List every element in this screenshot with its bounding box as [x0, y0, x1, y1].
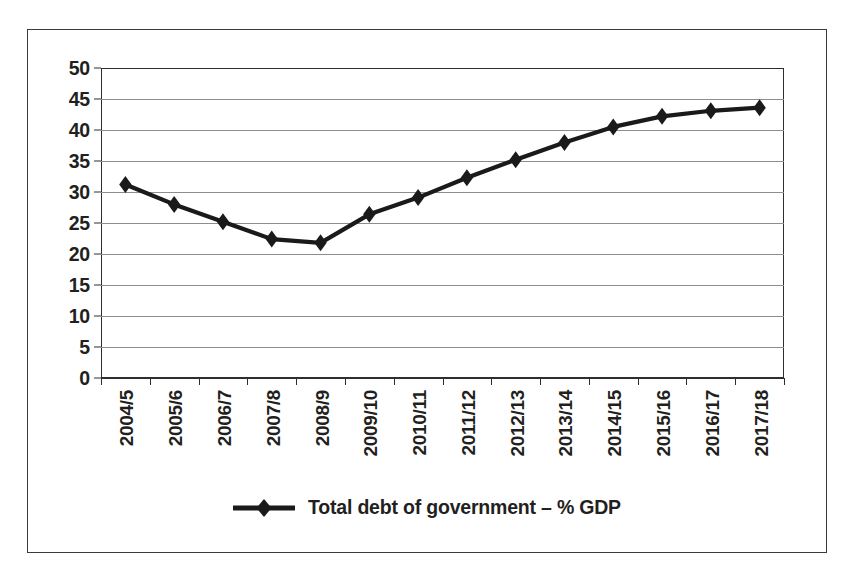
x-axis-tick-label: 2006/7	[214, 390, 236, 446]
legend-label: Total debt of government – % GDP	[308, 496, 621, 519]
x-axis-tick-label: 2007/8	[263, 390, 285, 446]
x-axis-tick-mark	[784, 378, 785, 385]
x-axis-tick-mark	[247, 378, 248, 385]
gridline	[101, 347, 784, 348]
y-axis-tick-mark	[94, 316, 101, 317]
x-axis-tick-mark	[199, 378, 200, 385]
diamond-marker-icon	[233, 498, 295, 518]
x-axis-tick-label: 2005/6	[165, 390, 187, 446]
x-axis-tick-mark	[296, 378, 297, 385]
y-axis-tick-label: 40	[69, 119, 90, 142]
y-axis-tick-mark	[94, 130, 101, 131]
x-axis-tick-label: 2009/10	[360, 390, 382, 457]
y-axis-tick-label: 20	[69, 243, 90, 266]
x-axis-tick-label: 2011/12	[458, 390, 480, 456]
y-axis-tick-mark	[94, 161, 101, 162]
y-axis-tick-mark	[94, 223, 101, 224]
x-axis-tick-mark	[589, 378, 590, 385]
plot-wrapper: 05101520253035404550 2004/52005/62006/72…	[101, 68, 784, 378]
gridline	[101, 99, 784, 100]
x-axis-tick-label: 2017/18	[751, 390, 773, 457]
x-axis-tick-label: 2014/15	[604, 390, 626, 457]
y-axis-tick-label: 10	[69, 305, 90, 328]
x-axis-tick-mark	[491, 378, 492, 385]
gridline	[101, 68, 784, 69]
gridline	[101, 285, 784, 286]
x-axis-tick-mark	[394, 378, 395, 385]
x-axis-tick-label: 2016/17	[702, 390, 724, 457]
x-axis-tick-mark	[150, 378, 151, 385]
y-axis-tick-label: 5	[79, 336, 90, 359]
gridline	[101, 223, 784, 224]
y-axis-tick-mark	[94, 378, 101, 379]
gridline	[101, 316, 784, 317]
x-axis-tick-mark	[735, 378, 736, 385]
x-axis-tick-mark	[638, 378, 639, 385]
y-axis-tick-mark	[94, 285, 101, 286]
x-axis-tick-mark	[540, 378, 541, 385]
y-axis-tick-label: 50	[69, 57, 90, 80]
x-axis-tick-mark	[345, 378, 346, 385]
y-axis-tick-label: 45	[69, 88, 90, 111]
gridline	[101, 130, 784, 131]
y-axis-tick-label: 30	[69, 181, 90, 204]
gridline	[101, 161, 784, 162]
y-axis-tick-label: 35	[69, 150, 90, 173]
x-axis-tick-label: 2004/5	[116, 390, 138, 446]
y-axis-tick-label: 25	[69, 212, 90, 235]
y-axis-tick-mark	[94, 99, 101, 100]
x-axis-tick-label: 2015/16	[653, 390, 675, 457]
x-axis-tick-mark	[101, 378, 102, 385]
chart-figure: 05101520253035404550 2004/52005/62006/72…	[27, 29, 827, 553]
y-axis-tick-mark	[94, 254, 101, 255]
y-axis-tick-mark	[94, 192, 101, 193]
x-axis-tick-mark	[443, 378, 444, 385]
y-axis-tick-mark	[94, 68, 101, 69]
chart-legend: Total debt of government – % GDP	[28, 496, 826, 519]
x-axis-tick-label: 2012/13	[507, 390, 529, 457]
y-axis-tick-label: 0	[79, 367, 90, 390]
y-axis-tick-label: 15	[69, 274, 90, 297]
x-axis-tick-label: 2010/11	[409, 390, 431, 456]
x-axis-tick-label: 2013/14	[555, 390, 577, 457]
y-axis-tick-mark	[94, 347, 101, 348]
x-axis-tick-label: 2008/9	[312, 390, 334, 446]
gridline	[101, 192, 784, 193]
x-axis-tick-mark	[686, 378, 687, 385]
gridline	[101, 254, 784, 255]
